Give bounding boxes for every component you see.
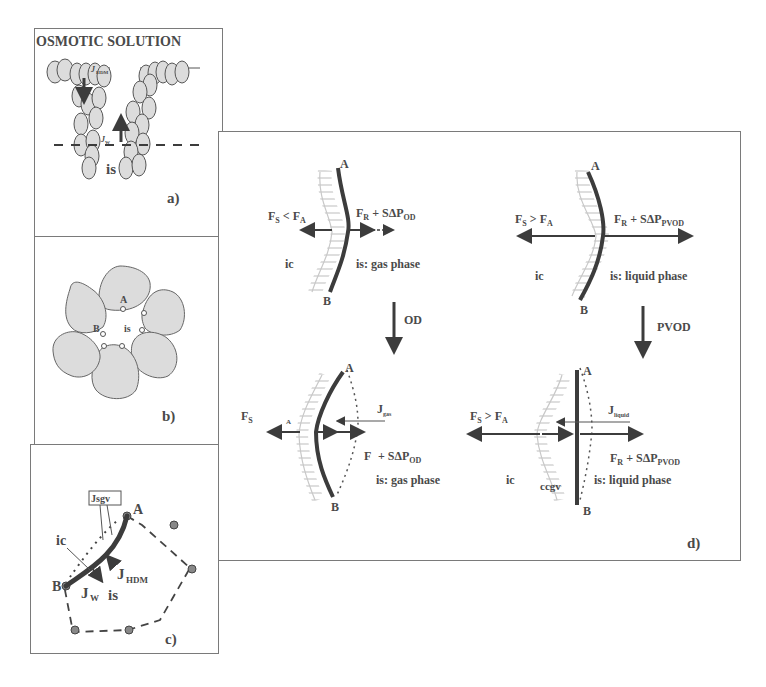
figure-canvas: OSMOTIC SOLUTION [0, 0, 766, 687]
jw-arrow [92, 568, 101, 580]
jsgv-label: Jsgv [91, 493, 110, 504]
cell-cluster-left [47, 59, 111, 179]
d-tr-ic-label: ic [535, 269, 544, 283]
jhdm-label: J [117, 566, 125, 582]
panel-c-point-a: A [133, 502, 144, 517]
d-bottom-left: A B FS A Jgas F + SΔPOD is: gas phase [241, 361, 441, 514]
jhdm-sub: HDM [126, 575, 149, 585]
d-tr-fr-text: FR + SΔPPVOD [614, 212, 684, 228]
d-br-jliquid-text: Jliquid [608, 403, 630, 418]
flux-hdm-sub: HDM [96, 70, 109, 75]
panel-d-label: d) [687, 535, 700, 552]
d-br-ic-label: ic [506, 473, 515, 487]
d-bl-phase-label: is: gas phase [376, 473, 441, 487]
panel-b: A B is b) [53, 266, 185, 425]
panel-b-point-a: A [120, 294, 128, 305]
d-bl-point-b: B [331, 500, 339, 514]
d-tr-point-b: B [580, 303, 588, 317]
panel-b-point-b: B [93, 323, 100, 334]
cell-cluster-right [119, 61, 189, 179]
panel-c-is-label: is [108, 587, 118, 603]
panel-d: A B FS < FA FR + SΔPOD ic is: gas phase … [241, 157, 700, 552]
d-bl-jgas-text: Jgas [377, 402, 392, 417]
d-tl-fs-text: FS < FA [268, 209, 306, 225]
cell-rosette [53, 266, 185, 399]
d-top-left: A B FS < FA FR + SΔPOD ic is: gas phase [268, 157, 421, 308]
d-tr-point-a: A [591, 159, 600, 173]
d-tl-ic-label: ic [285, 257, 294, 271]
d-br-fr-text: FR + SΔPPVOD [610, 451, 680, 467]
jw-label: J [81, 585, 89, 601]
panel-b-label: b) [162, 408, 175, 425]
d-br-point-a: A [583, 364, 592, 378]
panel-c: Jsgv A B ic J W J HDM is c) [52, 491, 196, 648]
panel-c-point-b: B [52, 579, 61, 594]
d-tl-phase-label: is: gas phase [356, 257, 421, 271]
pvod-label: PVOD [657, 320, 691, 334]
d-br-point-b: B [583, 504, 591, 518]
d-br-phase-label: is: liquid phase [594, 473, 672, 487]
d-bl-fs-text: FS [241, 409, 253, 425]
panel-b-is-label: is [124, 323, 131, 334]
panel-c-label: c) [165, 631, 177, 648]
d-bottom-right: A B FS > FA Jliquid FR + SΔPPVOD ic ccgv… [470, 364, 680, 518]
od-label: OD [404, 313, 422, 327]
d-tr-fs-text: FS > FA [515, 212, 553, 228]
d-bl-f-text: F + SΔPOD [364, 449, 421, 465]
d-tr-phase-label: is: liquid phase [610, 269, 688, 283]
d-br-ccgv-label: ccgv [540, 480, 561, 492]
d-bl-point-a: A [345, 361, 354, 375]
panel-a-label: a) [167, 190, 180, 207]
d-bl-fa-sub: A [286, 418, 291, 426]
d-br-fs-text: FS > FA [470, 409, 508, 425]
d-tl-fr-text: FR + SΔPOD [356, 206, 416, 222]
panel-a-is-label: is [106, 161, 116, 177]
panel-c-ic-label: ic [56, 533, 66, 548]
jhdm-arrow [108, 557, 115, 565]
panel-a-title: OSMOTIC SOLUTION [36, 34, 181, 49]
d-tl-point-b: B [323, 294, 331, 308]
jw-sub: W [90, 593, 99, 603]
panel-a: OSMOTIC SOLUTION [36, 34, 200, 207]
d-top-right: A B FS > FA FR + SΔPPVOD ic is: liquid p… [515, 159, 690, 317]
d-tl-point-a: A [340, 157, 349, 171]
